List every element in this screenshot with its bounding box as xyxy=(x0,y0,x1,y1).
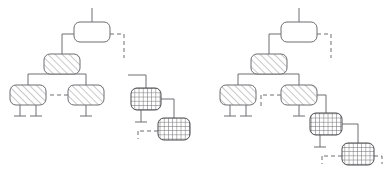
edge-mid-to-leaf2 xyxy=(62,74,86,85)
tree-diagram-svg xyxy=(0,0,387,179)
right-tree-nodes xyxy=(220,22,374,165)
node-right-group-root[interactable] xyxy=(281,22,317,42)
edge-root-to-mid xyxy=(269,34,281,54)
edge-root-dashed-out xyxy=(110,34,124,58)
node-left-group-aux-upper[interactable] xyxy=(131,88,161,110)
node-right-group-level1[interactable] xyxy=(251,54,287,74)
edge-root-to-mid xyxy=(62,34,74,54)
node-right-group-aux-upper[interactable] xyxy=(310,113,342,135)
node-left-group-aux-lower[interactable] xyxy=(158,118,190,140)
edges-layer xyxy=(14,8,382,164)
node-right-group-aux-lower[interactable] xyxy=(342,143,374,165)
diagram-canvas xyxy=(0,0,387,179)
edge-mid-to-leaf2 xyxy=(269,74,299,85)
nodes-layer xyxy=(10,22,374,165)
edge-cx1-to-cx2 xyxy=(161,99,174,118)
edge-cx2-right-tick xyxy=(374,156,382,164)
node-left-group-root[interactable] xyxy=(74,22,110,42)
edge-mid-to-leaf1 xyxy=(28,74,62,85)
node-right-group-level2-left[interactable] xyxy=(220,85,256,105)
edge-root-dashed-out xyxy=(317,34,331,58)
left-tree-nodes xyxy=(10,22,190,140)
edge-leaf2-to-cx1 xyxy=(317,95,326,113)
edge-cx1-to-cx2 xyxy=(342,124,358,143)
edge-mid-to-leaf1 xyxy=(238,74,269,85)
node-left-group-level2-left[interactable] xyxy=(10,85,46,105)
node-right-group-level2-right[interactable] xyxy=(281,85,317,105)
node-left-group-level1[interactable] xyxy=(44,54,80,74)
node-left-group-level2-right[interactable] xyxy=(68,85,104,105)
